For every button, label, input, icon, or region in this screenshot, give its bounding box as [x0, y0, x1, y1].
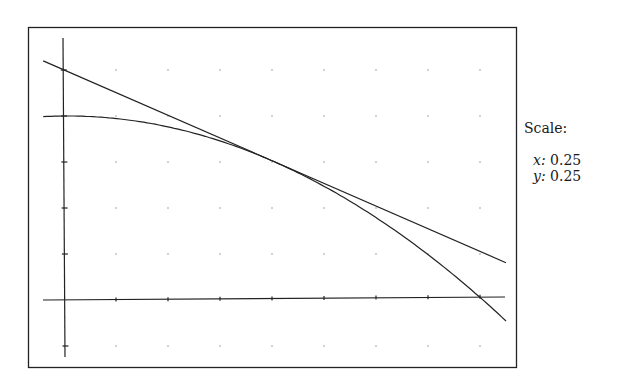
plot-area — [0, 0, 639, 385]
y-axis — [63, 38, 65, 357]
scale-y-label: y: — [533, 168, 546, 184]
scale-x-row: x: 0.25 — [524, 152, 581, 168]
scale-x-value: 0.25 — [550, 152, 581, 168]
scale-legend: Scale: x: 0.25 y: 0.25 — [524, 120, 581, 184]
curve-series — [43, 116, 506, 321]
scale-title: Scale: — [524, 120, 581, 136]
scale-x-label: x: — [533, 152, 546, 168]
scale-y-value: 0.25 — [550, 168, 581, 184]
tangent-line-series — [43, 61, 506, 263]
plot-frame — [29, 28, 517, 368]
x-axis — [43, 297, 505, 300]
axis-ticks — [61, 70, 480, 346]
scale-y-row: y: 0.25 — [524, 168, 581, 184]
dot-grid — [115, 69, 481, 347]
